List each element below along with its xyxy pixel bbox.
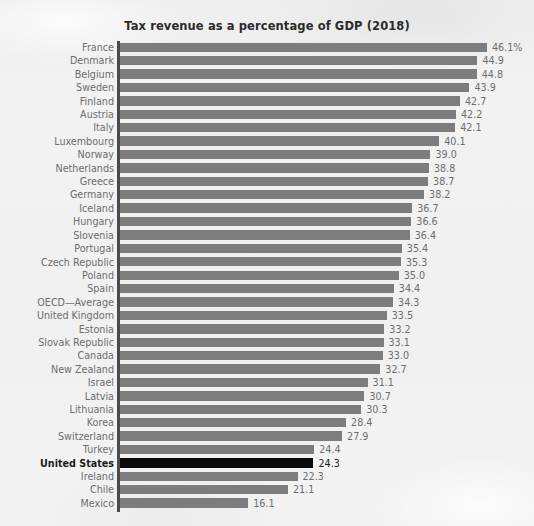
bar xyxy=(120,284,394,293)
value-label: 27.9 xyxy=(342,430,368,443)
bar xyxy=(120,244,402,253)
bar-track xyxy=(120,136,439,145)
category-label: Germany xyxy=(0,188,114,201)
bar-track xyxy=(120,338,384,347)
bar xyxy=(120,257,401,266)
bar-row: Korea28.4 xyxy=(0,416,534,429)
bar-track xyxy=(120,405,361,414)
value-label: 36.4 xyxy=(410,229,436,242)
value-label: 33.0 xyxy=(383,349,409,362)
category-label: Czech Republic xyxy=(0,256,114,269)
value-label: 38.8 xyxy=(429,162,455,175)
bar xyxy=(120,56,477,65)
category-label: Denmark xyxy=(0,54,114,67)
bar-track xyxy=(120,69,477,78)
category-label: Lithuania xyxy=(0,403,114,416)
bar-row: Lithuania30.3 xyxy=(0,403,534,416)
value-label: 39.0 xyxy=(430,148,456,161)
category-label: Spain xyxy=(0,282,114,295)
value-label: 36.6 xyxy=(411,215,437,228)
bar-row: Hungary36.6 xyxy=(0,215,534,228)
bar xyxy=(120,217,411,226)
bar xyxy=(120,69,477,78)
bar xyxy=(120,43,487,52)
category-label: Switzerland xyxy=(0,430,114,443)
bar-track xyxy=(120,311,387,320)
bar-row: Slovenia36.4 xyxy=(0,229,534,242)
bar-row: Mexico16.1 xyxy=(0,497,534,510)
bar-rows-container: France46.1%Denmark44.9Belgium44.8Sweden4… xyxy=(0,41,534,510)
bar-row: Czech Republic35.3 xyxy=(0,256,534,269)
bar-row: Finland42.7 xyxy=(0,95,534,108)
bar-track xyxy=(120,445,314,454)
category-label: Turkey xyxy=(0,443,114,456)
value-label: 30.3 xyxy=(361,403,387,416)
value-label: 35.3 xyxy=(401,256,427,269)
value-label: 21.1 xyxy=(288,483,314,496)
value-label: 44.9 xyxy=(477,54,503,67)
category-label: Ireland xyxy=(0,470,114,483)
value-label: 31.1 xyxy=(368,376,394,389)
bar-track xyxy=(120,364,380,373)
bar xyxy=(120,418,346,427)
bar-track xyxy=(120,96,460,105)
value-label: 44.8 xyxy=(477,68,503,81)
value-label: 33.5 xyxy=(387,309,413,322)
value-label: 42.7 xyxy=(460,95,486,108)
bar-row: Ireland22.3 xyxy=(0,470,534,483)
category-label: Slovenia xyxy=(0,229,114,242)
bar-track xyxy=(120,177,428,186)
bar-track xyxy=(120,485,288,494)
bar xyxy=(120,190,424,199)
bar xyxy=(120,123,455,132)
category-label: Korea xyxy=(0,416,114,429)
value-label: 40.1 xyxy=(439,135,465,148)
category-label: Slovak Republic xyxy=(0,336,114,349)
value-label: 32.7 xyxy=(380,363,406,376)
bar xyxy=(120,136,439,145)
bar-row: Turkey24.4 xyxy=(0,443,534,456)
value-label: 46.1% xyxy=(487,41,522,54)
value-label: 38.7 xyxy=(428,175,454,188)
bar-row: Latvia30.7 xyxy=(0,390,534,403)
bar xyxy=(120,311,387,320)
bar xyxy=(120,163,429,172)
bar-track xyxy=(120,458,313,467)
bar xyxy=(120,338,384,347)
bar xyxy=(120,177,428,186)
value-label: 35.4 xyxy=(402,242,428,255)
bar xyxy=(120,405,361,414)
bar-row: Sweden43.9 xyxy=(0,81,534,94)
bar xyxy=(120,203,412,212)
bar-track xyxy=(120,284,394,293)
category-label: Hungary xyxy=(0,215,114,228)
bar xyxy=(120,351,383,360)
bar-track xyxy=(120,431,342,440)
bar-track xyxy=(120,498,248,507)
bar-row: OECD—Average34.3 xyxy=(0,296,534,309)
bar-row: Iceland36.7 xyxy=(0,202,534,215)
bar xyxy=(120,364,380,373)
bar-track xyxy=(120,472,298,481)
bar-track xyxy=(120,163,429,172)
bar xyxy=(120,485,288,494)
bar-row: Canada33.0 xyxy=(0,349,534,362)
category-label: Greece xyxy=(0,175,114,188)
bar-track xyxy=(120,123,455,132)
category-label: Estonia xyxy=(0,323,114,336)
value-label: 30.7 xyxy=(364,390,390,403)
bar-row: Switzerland27.9 xyxy=(0,430,534,443)
value-label: 16.1 xyxy=(248,497,274,510)
value-label: 34.4 xyxy=(394,282,420,295)
bar xyxy=(120,458,313,467)
category-label: Belgium xyxy=(0,68,114,81)
bar-row: Italy42.1 xyxy=(0,121,534,134)
page-title: Tax revenue as a percentage of GDP (2018… xyxy=(0,19,534,33)
bar xyxy=(120,297,393,306)
bar-track xyxy=(120,203,412,212)
bar-row: Greece38.7 xyxy=(0,175,534,188)
bar-track xyxy=(120,324,384,333)
category-label: Italy xyxy=(0,121,114,134)
value-label: 42.2 xyxy=(456,108,482,121)
bar xyxy=(120,83,469,92)
